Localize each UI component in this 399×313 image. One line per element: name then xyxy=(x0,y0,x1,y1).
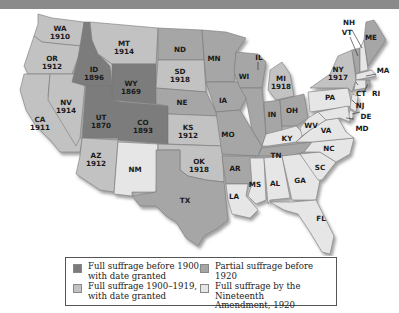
state-ND[interactable] xyxy=(158,28,204,60)
svg-text:ND: ND xyxy=(174,45,186,54)
svg-text:MO: MO xyxy=(221,130,234,139)
svg-text:1914: 1914 xyxy=(56,106,76,115)
svg-text:1912: 1912 xyxy=(86,159,106,168)
svg-text:OH: OH xyxy=(286,106,298,115)
svg-text:KY: KY xyxy=(282,134,294,143)
svg-text:IL: IL xyxy=(255,53,263,62)
state-FL[interactable] xyxy=(270,200,334,254)
svg-text:1893: 1893 xyxy=(133,126,153,135)
svg-text:SC: SC xyxy=(315,163,325,172)
svg-text:1869: 1869 xyxy=(121,87,141,96)
us-suffrage-map: WA1910 OR1912 CA1911 NV1914 ID1896 MT191… xyxy=(0,0,399,256)
svg-text:WV: WV xyxy=(304,121,318,130)
svg-text:LA: LA xyxy=(229,192,240,201)
svg-text:VA: VA xyxy=(321,126,332,135)
legend-item-before-1900: Full suffrage before 1900,with date gran… xyxy=(73,262,202,281)
svg-text:DE: DE xyxy=(361,112,372,121)
svg-text:AL: AL xyxy=(270,179,281,188)
legend-item-nineteenth: Full suffrage by the NineteenthAmendment… xyxy=(200,282,336,311)
svg-text:FL: FL xyxy=(316,214,326,223)
svg-text:AR: AR xyxy=(229,164,241,173)
svg-text:1912: 1912 xyxy=(42,62,62,71)
svg-text:GA: GA xyxy=(294,176,306,185)
svg-text:1870: 1870 xyxy=(91,121,111,130)
svg-text:PA: PA xyxy=(325,93,336,102)
svg-text:1917: 1917 xyxy=(328,73,348,82)
legend-swatch xyxy=(200,284,209,293)
svg-text:NC: NC xyxy=(323,144,334,153)
svg-text:NJ: NJ xyxy=(356,101,365,110)
svg-text:MD: MD xyxy=(355,124,368,133)
svg-text:IA: IA xyxy=(219,96,228,105)
legend-label: with date granted xyxy=(88,271,166,281)
svg-text:TN: TN xyxy=(271,151,282,160)
svg-text:1912: 1912 xyxy=(178,131,198,140)
svg-text:MA: MA xyxy=(377,66,390,75)
svg-text:MN: MN xyxy=(207,54,220,63)
svg-text:1918: 1918 xyxy=(189,165,209,174)
svg-text:1910: 1910 xyxy=(50,32,70,41)
state-ME[interactable] xyxy=(364,20,386,66)
legend-label: Full suffrage 1900–1919, xyxy=(88,281,197,291)
legend-label: Partial suffrage before 1920 xyxy=(215,261,313,281)
legend-swatch xyxy=(200,264,209,273)
legend-label: with date granted xyxy=(88,291,166,301)
svg-text:CT: CT xyxy=(356,89,366,98)
legend-item-partial: Partial suffrage before 1920 xyxy=(200,262,336,281)
svg-text:TX: TX xyxy=(180,196,191,205)
svg-text:NH: NH xyxy=(343,18,355,27)
map-legend: Full suffrage before 1900,with date gran… xyxy=(65,257,337,306)
svg-text:1911: 1911 xyxy=(30,123,50,132)
legend-swatch xyxy=(73,264,82,273)
svg-text:IN: IN xyxy=(268,110,277,119)
svg-text:1918: 1918 xyxy=(170,75,190,84)
state-KS[interactable] xyxy=(168,114,222,146)
svg-text:ME: ME xyxy=(365,33,377,42)
svg-text:1914: 1914 xyxy=(114,47,134,56)
legend-swatch xyxy=(73,284,82,293)
svg-text:NE: NE xyxy=(177,98,188,107)
legend-label: Full suffrage before 1900, xyxy=(88,261,202,271)
svg-text:RI: RI xyxy=(372,89,381,98)
legend-item-full-1900-1919: Full suffrage 1900–1919,with date grante… xyxy=(73,282,197,301)
svg-text:NM: NM xyxy=(128,165,141,174)
legend-label: Amendment, 1920 xyxy=(215,300,295,310)
svg-text:1896: 1896 xyxy=(84,73,104,82)
legend-label: Full suffrage by the Nineteenth xyxy=(215,281,301,301)
svg-text:VT: VT xyxy=(342,28,353,37)
svg-text:WI: WI xyxy=(239,72,250,81)
svg-text:MS: MS xyxy=(249,180,261,189)
svg-text:1918: 1918 xyxy=(271,82,291,91)
